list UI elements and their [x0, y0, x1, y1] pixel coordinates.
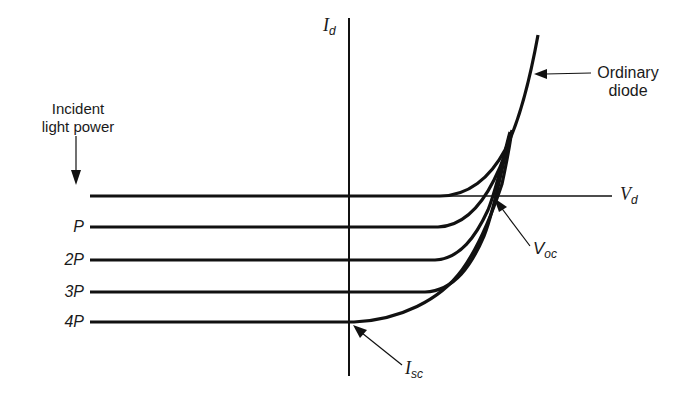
ordinary-diode-label: Ordinary diode: [590, 64, 666, 100]
y-axis-label: Id: [323, 16, 336, 40]
ordinary-diode-arrow: [545, 73, 591, 74]
incident-light-line2: light power: [30, 118, 126, 136]
curve-4p: [90, 136, 511, 322]
curve-p: [90, 130, 512, 227]
arrowhead-icon: [71, 170, 81, 185]
voc-arrow: [500, 206, 530, 246]
isc-label: Isc: [405, 359, 423, 383]
curve-label-p: P: [44, 218, 84, 236]
arrowhead-icon: [534, 69, 547, 79]
incident-light-label: Incident light power: [30, 100, 126, 136]
curve-3p: [90, 134, 510, 292]
x-axis-symbol: V: [620, 184, 631, 204]
ordinary-diode-line2: diode: [590, 82, 666, 100]
voc-symbol: V: [533, 239, 544, 258]
curve-label-3p: 3P: [44, 283, 84, 301]
isc-arrow: [362, 333, 402, 365]
x-axis-subscript: d: [631, 193, 638, 207]
voc-label: Voc: [533, 240, 557, 263]
curve-ordinary-diode: [90, 35, 538, 196]
incident-light-line1: Incident: [30, 100, 126, 118]
x-axis-label: Vd: [620, 185, 638, 209]
diagram-canvas: [0, 0, 698, 398]
ordinary-diode-line1: Ordinary: [590, 64, 666, 82]
y-axis-subscript: d: [329, 24, 336, 38]
curve-label-2p: 2P: [44, 251, 84, 269]
curve-label-4p: 4P: [44, 313, 84, 331]
voc-subscript: oc: [544, 247, 557, 261]
isc-subscript: sc: [411, 367, 423, 381]
